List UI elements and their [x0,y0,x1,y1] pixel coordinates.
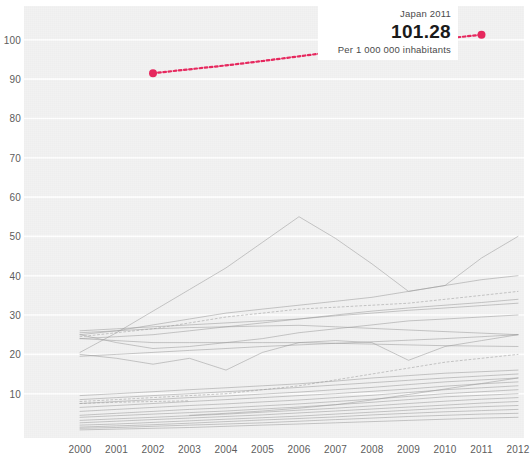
y-axis-tick-label: 80 [9,113,21,124]
y-axis-tick-label: 30 [9,310,21,321]
x-axis: 2000200120022003200420052006200720082009… [24,444,524,464]
y-axis-tick-label: 40 [9,270,21,281]
x-axis-tick-label: 2012 [506,444,529,455]
tooltip-value: 101.28 [325,20,451,43]
x-axis-tick-label: 2007 [324,444,347,455]
x-axis-tick-label: 2004 [214,444,237,455]
series-line [80,413,518,428]
x-axis-tick-label: 2001 [105,444,128,455]
y-axis-tick-label: 10 [9,388,21,399]
series-line [80,417,518,430]
highlight-point-marker[interactable] [478,31,486,39]
y-axis-tick-label: 70 [9,152,21,163]
x-axis-tick-label: 2011 [470,444,492,455]
y-axis-tick-label: 90 [9,74,21,85]
x-axis-tick-label: 2003 [178,444,201,455]
plot-canvas [24,6,524,438]
x-axis-tick-label: 2002 [141,444,164,455]
x-axis-tick-label: 2005 [251,444,274,455]
series-line [80,276,518,335]
x-axis-tick-label: 2009 [397,444,420,455]
y-axis-tick-label: 20 [9,349,21,360]
plot-area [24,6,524,438]
y-axis: 102030405060708090100 [0,6,24,438]
y-axis-tick-label: 50 [9,231,21,242]
series-line [80,394,518,418]
x-axis-tick-label: 2010 [433,444,456,455]
y-axis-tick-label: 60 [9,192,21,203]
tooltip-subtitle: Per 1 000 000 inhabitants [325,43,451,56]
series-line [80,398,518,421]
tooltip: Japan 2011 101.28 Per 1 000 000 inhabita… [318,3,458,60]
y-axis-tick-label: 100 [4,34,21,45]
series-line [80,291,518,336]
tooltip-title: Japan 2011 [325,8,451,20]
series-line [80,303,518,331]
x-axis-tick-label: 2008 [360,444,383,455]
x-axis-tick-label: 2006 [287,444,310,455]
highlight-point-marker[interactable] [149,69,157,77]
x-axis-tick-label: 2000 [68,444,91,455]
